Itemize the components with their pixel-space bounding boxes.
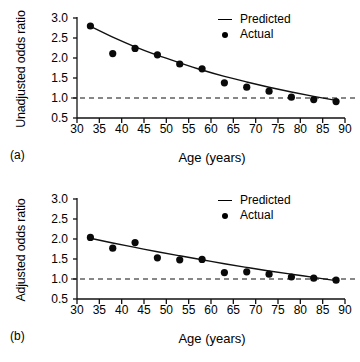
data-point-actual	[154, 254, 161, 261]
legend-label-actual: Actual	[240, 208, 273, 223]
data-point-actual	[131, 45, 138, 52]
data-point-actual	[221, 79, 228, 86]
y-tick-label: 1.0	[28, 91, 68, 105]
data-point-actual	[87, 234, 94, 241]
data-point-actual	[176, 60, 183, 67]
data-point-actual	[109, 245, 116, 252]
data-point-actual	[198, 65, 205, 72]
y-tick-label: 2.5	[28, 31, 68, 45]
data-point-actual	[265, 271, 272, 278]
legend-line-icon	[215, 19, 235, 20]
data-point-actual	[131, 239, 138, 246]
legend-dot-icon	[215, 213, 235, 219]
legend-label-predicted: Predicted	[240, 193, 291, 208]
data-point-actual	[288, 94, 295, 101]
predicted-curve	[90, 238, 336, 280]
legend-entry-predicted: Predicted	[215, 193, 291, 208]
legend-line-icon	[215, 200, 235, 201]
data-point-actual	[87, 22, 94, 29]
legend-entry-predicted: Predicted	[215, 12, 291, 27]
data-point-actual	[221, 269, 228, 276]
data-point-actual	[310, 96, 317, 103]
data-point-actual	[243, 84, 250, 91]
data-point-actual	[109, 50, 116, 57]
y-tick-label: 1.5	[28, 252, 68, 266]
data-point-actual	[332, 98, 339, 105]
data-point-actual	[332, 277, 339, 284]
y-tick-label: 3.0	[28, 11, 68, 25]
data-point-actual	[288, 273, 295, 280]
legend-label-predicted: Predicted	[240, 12, 291, 27]
y-tick-label: 1.0	[28, 272, 68, 286]
legend-entry-actual: Actual	[215, 27, 291, 42]
legend-entry-actual: Actual	[215, 208, 291, 223]
x-tick-label: 90	[330, 122, 360, 136]
data-point-actual	[243, 268, 250, 275]
x-tick-label: 90	[330, 303, 360, 317]
panel-tag-a: (a)	[10, 148, 25, 162]
y-tick-label: 3.0	[28, 192, 68, 206]
panel-tag-b: (b)	[10, 329, 25, 343]
y-tick-label: 2.0	[28, 51, 68, 65]
y-tick-label: 2.0	[28, 232, 68, 246]
legend-a: Predicted Actual	[215, 12, 291, 42]
predicted-curve	[90, 26, 336, 100]
data-point-actual	[265, 88, 272, 95]
y-tick-label: 1.5	[28, 71, 68, 85]
legend-label-actual: Actual	[240, 27, 273, 42]
legend-b: Predicted Actual	[215, 193, 291, 223]
data-point-actual	[198, 256, 205, 263]
panel-b-adjusted: Adjusted odds ratio 0.51.01.52.02.53.030…	[0, 181, 360, 362]
data-point-actual	[154, 51, 161, 58]
data-point-actual	[176, 256, 183, 263]
panel-a-unadjusted: Unadjusted odds ratio 0.51.01.52.02.53.0…	[0, 0, 360, 181]
x-axis-label: Age (years)	[77, 331, 347, 346]
data-point-actual	[310, 275, 317, 282]
legend-dot-icon	[215, 32, 235, 38]
y-tick-label: 2.5	[28, 212, 68, 226]
x-axis-label: Age (years)	[77, 150, 347, 165]
